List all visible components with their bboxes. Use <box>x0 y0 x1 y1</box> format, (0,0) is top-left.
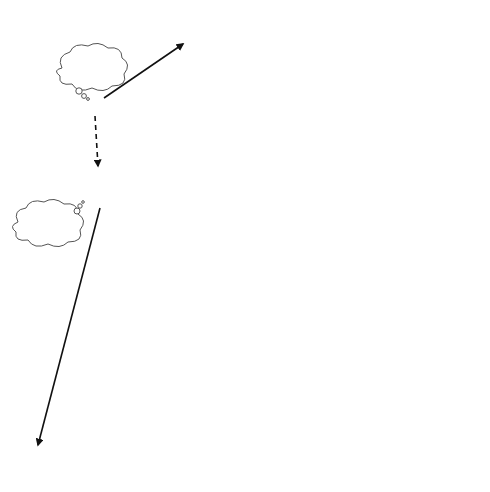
input-thought-bubble <box>56 43 127 100</box>
input-to-target-dashed-arrow <box>95 116 98 166</box>
output-thought-bubble <box>12 199 84 246</box>
seq2seq-diagram <box>0 0 490 492</box>
